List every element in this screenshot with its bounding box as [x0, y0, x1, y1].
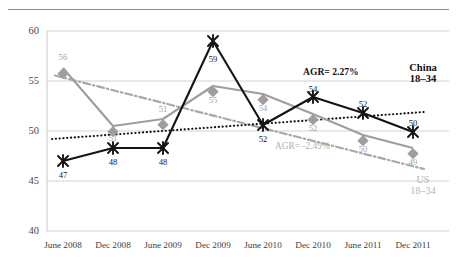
- china-label-0: 47: [51, 170, 75, 180]
- x-tick-june-2011: June 2011: [335, 240, 391, 250]
- x-tick-june-2010: June 2010: [235, 240, 291, 250]
- china-label-3: 59: [201, 54, 225, 64]
- us-label-5: 52: [301, 123, 325, 133]
- us-tag-line2: 18–34: [392, 185, 454, 196]
- china-label-1: 48: [101, 157, 125, 167]
- china-label-2: 48: [151, 157, 175, 167]
- x-tick-dec-2009: Dec 2009: [185, 240, 241, 250]
- x-tick-dec-2008: Dec 2008: [85, 240, 141, 250]
- china-label-4: 52: [251, 134, 275, 144]
- china-series-tag: China 18–34: [392, 62, 454, 84]
- us-label-3: 55: [201, 95, 225, 105]
- china-label-6: 52: [351, 99, 375, 109]
- us-tag-line1: US: [392, 174, 454, 185]
- us-label-7: 49: [401, 157, 425, 167]
- us-label-1: 51: [101, 133, 125, 143]
- china-label-7: 50: [401, 118, 425, 128]
- china-label-5: 54: [301, 84, 325, 94]
- y-tick-45: 45: [17, 175, 39, 186]
- x-tick-dec-2010: Dec 2010: [285, 240, 341, 250]
- us-label-4: 54: [251, 103, 275, 113]
- y-tick-40: 40: [17, 225, 39, 236]
- china-tag-line2: 18–34: [392, 73, 454, 84]
- us-label-2: 51: [151, 104, 175, 114]
- gridlines: [47, 31, 449, 231]
- us-series-tag: US 18–34: [392, 174, 454, 196]
- agr-china-annotation: AGR= 2.27%: [303, 66, 359, 77]
- y-tick-60: 60: [17, 25, 39, 36]
- x-tick-june-2008: June 2008: [35, 240, 91, 250]
- y-tick-55: 55: [17, 75, 39, 86]
- y-tick-50: 50: [17, 125, 39, 136]
- us-label-0: 56: [51, 52, 75, 62]
- chart-container: 60 55 50 45 40 June 2008 Dec 2008 June 2…: [0, 0, 457, 264]
- agr-us-annotation: AGR= -2.49%: [275, 141, 330, 151]
- us-label-6: 50: [351, 144, 375, 154]
- x-tick-june-2009: June 2009: [135, 240, 191, 250]
- x-tick-dec-2011: Dec 2011: [385, 240, 441, 250]
- chart-plot-area: [0, 0, 457, 264]
- china-tag-line1: China: [392, 62, 454, 73]
